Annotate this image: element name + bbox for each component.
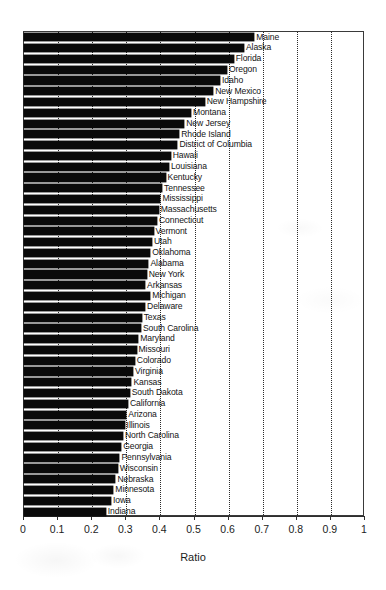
bar-category-label: Kentucky [168, 173, 203, 182]
bar-row: South Dakota [24, 388, 363, 399]
bar-category-label: Delaware [147, 302, 183, 311]
bar-category-label: North Carolina [125, 431, 179, 440]
bar-category-label: Maine [256, 33, 279, 42]
bar [24, 378, 131, 386]
bar-row: Idaho [24, 75, 363, 86]
bar-row: Maryland [24, 334, 363, 345]
x-tick-label: 1 [361, 523, 367, 535]
bar-category-label: New Mexico [215, 87, 261, 96]
bar-category-label: Oregon [229, 65, 257, 74]
bar [24, 357, 135, 365]
bar-category-label: Michigan [152, 291, 186, 300]
bar-row: Indiana [24, 506, 363, 517]
bar-row: Iowa [24, 495, 363, 506]
bar-row: New York [24, 269, 363, 280]
bar [24, 227, 154, 235]
bar-row: Vermont [24, 226, 363, 237]
bar-row: Mississippi [24, 194, 363, 205]
bar-row: Hawaii [24, 151, 363, 162]
bar-category-label: Pennsylvania [121, 453, 171, 462]
x-tick-label: 0 [20, 523, 26, 535]
bar [24, 292, 150, 300]
bar-category-label: Vermont [156, 227, 187, 236]
bar-row: District of Columbia [24, 140, 363, 151]
bar-category-label: Minnesota [115, 485, 154, 494]
bar-category-label: Alabama [150, 259, 183, 268]
bar [24, 486, 113, 494]
bar-category-label: Tennessee [164, 184, 205, 193]
bar-category-label: California [130, 399, 165, 408]
bar-category-label: Georgia [123, 442, 153, 451]
x-tick-label: 0.1 [50, 523, 65, 535]
bar-category-label: Kansas [133, 378, 161, 387]
bar [24, 98, 205, 106]
bar-row: Oregon [24, 64, 363, 75]
bar [24, 497, 111, 505]
bar [24, 44, 244, 52]
bar-category-label: Arizona [128, 410, 156, 419]
bar [24, 464, 118, 472]
bar [24, 475, 115, 483]
x-tick-label: 0.2 [84, 523, 99, 535]
bar-row: Texas [24, 312, 363, 323]
bar-category-label: District of Columbia [179, 140, 252, 149]
bar-row: Massachusetts [24, 204, 363, 215]
bar-row: Wisconsin [24, 463, 363, 474]
bar [24, 249, 150, 257]
bar [24, 152, 171, 160]
bar-row: Delaware [24, 301, 363, 312]
bar [24, 109, 191, 117]
bar-category-label: Oklahoma [152, 248, 190, 257]
bar [24, 195, 160, 203]
bar-category-label: Hawaii [173, 151, 198, 160]
bar [24, 346, 137, 354]
bar [24, 270, 147, 278]
bar [24, 173, 166, 181]
bar-category-label: Texas [144, 313, 166, 322]
bar [24, 454, 119, 462]
bar-category-label: Rhode Island [181, 130, 230, 139]
x-tick-label: 0.9 [323, 523, 338, 535]
bar [24, 184, 162, 192]
x-tick-label: 0.7 [254, 523, 269, 535]
bar-row: Arkansas [24, 280, 363, 291]
bar-category-label: South Dakota [132, 388, 183, 397]
bar [24, 389, 130, 397]
plot-area: MaineAlaskaFloridaOregonIdahoNew MexicoN… [23, 31, 364, 516]
bar-category-label: New Hampshire [207, 97, 267, 106]
bar-row: Montana [24, 107, 363, 118]
bar-category-label: Illinois [127, 421, 150, 430]
bar-row: Arizona [24, 409, 363, 420]
bar-category-label: Connecticut [159, 216, 203, 225]
x-tick-label: 0.5 [186, 523, 201, 535]
bar [24, 281, 145, 289]
bar-category-label: Arkansas [147, 281, 182, 290]
bar [24, 130, 179, 138]
ratio-bar-chart: MaineAlaskaFloridaOregonIdahoNew MexicoN… [0, 0, 386, 590]
x-tick-label: 0.8 [288, 523, 303, 535]
bar-row: Colorado [24, 355, 363, 366]
x-axis-title: Ratio [0, 551, 386, 563]
bar-row: Kentucky [24, 172, 363, 183]
bar-row: California [24, 398, 363, 409]
bar [24, 432, 123, 440]
bar-category-label: Massachusetts [161, 205, 217, 214]
bar-category-label: South Carolina [143, 324, 198, 333]
bar [24, 260, 148, 268]
bar [24, 314, 142, 322]
bar-row: Missouri [24, 345, 363, 356]
bar-row: Utah [24, 237, 363, 248]
bar [24, 55, 234, 63]
bar-row: Nebraska [24, 474, 363, 485]
bar-row: Pennsylvania [24, 452, 363, 463]
bar [24, 66, 227, 74]
x-tick-label: 0.4 [152, 523, 167, 535]
bar-row: Oklahoma [24, 248, 363, 259]
bar-category-label: Mississippi [162, 194, 202, 203]
bar-category-label: Missouri [139, 345, 170, 354]
bar-row: North Carolina [24, 431, 363, 442]
bar-row: Tennessee [24, 183, 363, 194]
bar [24, 238, 152, 246]
bar-category-label: Utah [154, 237, 172, 246]
bar [24, 335, 138, 343]
